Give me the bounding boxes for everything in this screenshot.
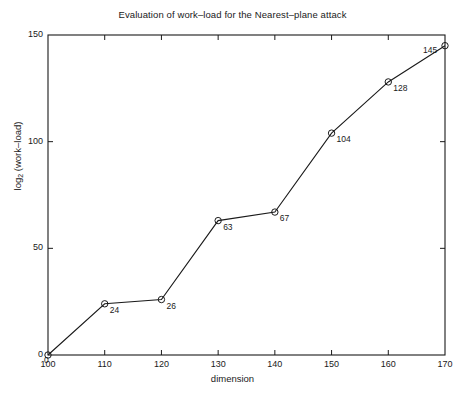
y-axis-label-base: log	[12, 178, 23, 191]
data-point-label: 104	[337, 134, 351, 144]
y-axis-label: log2 (work–load)	[12, 91, 24, 221]
figure-canvas: Evaluation of work–load for the Nearest–…	[0, 0, 465, 395]
plot-area	[0, 0, 465, 395]
x-tick-label: 120	[141, 359, 181, 369]
x-tick-label: 110	[85, 359, 125, 369]
data-point-label: 67	[280, 213, 289, 223]
y-axis-label-rest: (work–load)	[12, 122, 23, 174]
x-tick-label: 170	[425, 359, 465, 369]
data-point-label: 0	[44, 355, 49, 365]
x-tick-label: 140	[255, 359, 295, 369]
data-point-label: 63	[223, 222, 232, 232]
x-tick-label: 160	[368, 359, 408, 369]
x-tick-label: 150	[312, 359, 352, 369]
y-axis-label-subscript: 2	[17, 174, 24, 178]
data-point-label: 145	[423, 45, 437, 55]
x-tick-label: 130	[198, 359, 238, 369]
data-point-label: 24	[110, 305, 119, 315]
y-tick-label: 0	[9, 349, 43, 359]
y-tick-label: 50	[9, 242, 43, 252]
data-point-label: 26	[166, 301, 175, 311]
x-axis-label: dimension	[0, 373, 465, 384]
data-point-label: 128	[393, 83, 407, 93]
y-tick-label: 150	[9, 29, 43, 39]
